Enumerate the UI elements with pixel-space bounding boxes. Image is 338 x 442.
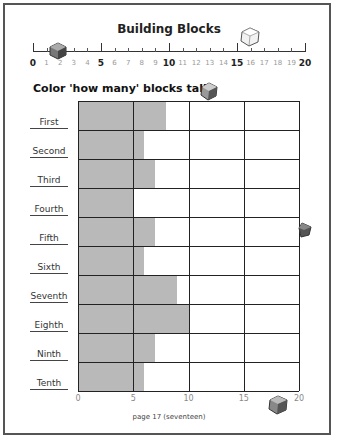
bar[interactable] — [78, 101, 166, 130]
ruler-label: 1 — [44, 59, 48, 67]
ruler-label: 12 — [192, 59, 201, 67]
bar[interactable] — [78, 130, 144, 159]
ruler-label: 18 — [273, 59, 282, 67]
ruler-label: 0 — [30, 58, 36, 68]
ruler-label: 6 — [112, 59, 116, 67]
ruler-tick — [155, 48, 156, 52]
bar-chart-grid — [78, 101, 299, 391]
instruction-text: Color 'how many' blocks tall. — [33, 82, 211, 95]
x-axis-label: 10 — [183, 394, 193, 403]
cube-icon — [240, 27, 260, 47]
ruler-tick — [264, 48, 265, 52]
grid-vline — [133, 101, 134, 391]
ruler-tick — [169, 43, 170, 52]
ruler-label: 19 — [287, 59, 296, 67]
x-axis-label: 15 — [239, 394, 249, 403]
grid-vline — [189, 101, 190, 391]
ruler-label: 9 — [153, 59, 157, 67]
grid-vline — [299, 101, 300, 391]
bar[interactable] — [78, 159, 155, 188]
ruler-label: 14 — [219, 59, 228, 67]
ruler-label: 7 — [126, 59, 130, 67]
cube-icon — [200, 82, 218, 101]
grid-vline — [78, 101, 79, 391]
row-label: Third — [30, 175, 68, 187]
bar[interactable] — [78, 275, 177, 304]
ruler-tick — [115, 48, 116, 52]
ruler-tick — [291, 48, 292, 52]
ruler-tick — [33, 43, 34, 52]
cube-icon — [298, 222, 312, 238]
row-label: Fifth — [30, 233, 68, 245]
row-label: Eighth — [30, 320, 68, 332]
ruler-tick — [183, 48, 184, 52]
ruler-tick — [87, 48, 88, 52]
ruler-label: 2 — [58, 59, 62, 67]
ruler-label: 17 — [260, 59, 269, 67]
ruler-label: 13 — [205, 59, 214, 67]
ruler-label: 3 — [72, 59, 76, 67]
ruler-tick — [47, 48, 48, 52]
x-axis-label: 20 — [294, 394, 304, 403]
x-axis-label: 0 — [75, 394, 80, 403]
ruler-tick — [210, 48, 211, 52]
ruler-label: 10 — [163, 58, 176, 68]
ruler-tick — [101, 43, 102, 52]
bar[interactable] — [78, 246, 144, 275]
row-label: Sixth — [30, 262, 68, 274]
cube-icon — [49, 42, 67, 60]
ruler-tick — [251, 48, 252, 52]
row-label: Second — [30, 146, 68, 158]
ruler-tick — [128, 48, 129, 52]
row-label: Tenth — [30, 378, 68, 390]
ruler-label: 4 — [85, 59, 89, 67]
grid-hline — [78, 391, 299, 392]
page-title: Building Blocks — [0, 22, 338, 36]
row-label: First — [30, 117, 68, 129]
ruler-tick — [305, 43, 306, 52]
row-label: Seventh — [30, 291, 68, 303]
ruler-label: 16 — [246, 59, 255, 67]
number-ruler — [33, 43, 305, 55]
ruler-tick — [196, 48, 197, 52]
ruler-label: 8 — [140, 59, 144, 67]
bar[interactable] — [78, 217, 155, 246]
ruler-tick — [142, 48, 143, 52]
ruler-label: 20 — [299, 58, 312, 68]
row-label: Ninth — [30, 349, 68, 361]
ruler-label: 11 — [178, 59, 187, 67]
cube-icon — [268, 395, 288, 415]
bar[interactable] — [78, 188, 133, 217]
x-axis-label: 5 — [131, 394, 136, 403]
grid-vline — [244, 101, 245, 391]
ruler-label: 5 — [98, 58, 104, 68]
bar[interactable] — [78, 362, 144, 391]
ruler-tick — [278, 48, 279, 52]
ruler-label: 15 — [231, 58, 244, 68]
ruler-tick — [223, 48, 224, 52]
row-label: Fourth — [30, 204, 68, 216]
ruler-tick — [237, 43, 238, 52]
ruler-tick — [74, 48, 75, 52]
bar[interactable] — [78, 333, 155, 362]
